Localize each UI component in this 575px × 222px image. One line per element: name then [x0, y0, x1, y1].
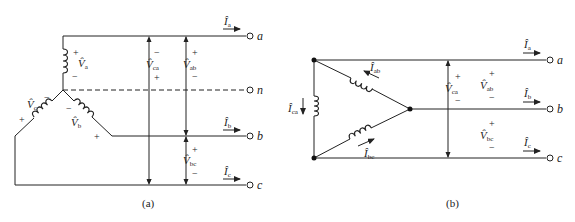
ibc-label: Îbc: [363, 147, 374, 161]
ib-label-b: Îb: [523, 87, 532, 101]
terminal-label-a-b: a: [557, 53, 563, 67]
wye-circuit: [15, 29, 253, 188]
caption-a: (a): [142, 197, 155, 210]
terminal-c-b: [547, 155, 553, 161]
ia-label: Îa: [223, 15, 232, 29]
terminal-c: [247, 182, 253, 188]
ic-label-b: Îc: [523, 136, 531, 150]
node-top: [312, 58, 317, 63]
svg-text:−: −: [489, 92, 495, 103]
coil-b-icon: [74, 98, 95, 117]
ib-label: Îb: [223, 116, 232, 130]
vca-label-b: V̂ca: [445, 82, 459, 96]
coil-a-icon: [63, 49, 68, 73]
svg-text:+: +: [19, 114, 25, 125]
svg-text:−: −: [154, 47, 160, 58]
terminal-b: [247, 133, 253, 139]
terminal-label-a: a: [257, 29, 263, 43]
vab-label-b: V̂ab: [480, 79, 494, 93]
va-label: V̂a: [78, 57, 89, 71]
svg-text:−: −: [192, 71, 198, 82]
ica-label: Îca: [287, 102, 299, 116]
svg-text:−: −: [455, 95, 461, 106]
terminal-b-b: [547, 106, 553, 112]
vbc-label: V̂bc: [183, 154, 196, 168]
svg-text:−: −: [192, 168, 198, 179]
terminal-a-b: [547, 57, 553, 63]
node-bottom: [312, 156, 317, 161]
terminal-label-c-b: c: [557, 151, 563, 165]
node-right: [408, 107, 413, 112]
svg-text:+: +: [192, 47, 198, 58]
coil-bc-icon: [348, 124, 371, 139]
svg-text:+: +: [489, 118, 495, 129]
svg-text:+: +: [192, 144, 198, 155]
terminal-label-n: n: [257, 83, 263, 97]
three-phase-diagram: a n b c Îa Îb Îc + V̂a − V̂c − + − V̂b +…: [0, 0, 575, 222]
delta-circuit: [303, 53, 553, 161]
vca-label: V̂ca: [146, 58, 160, 72]
svg-text:+: +: [94, 131, 100, 142]
svg-text:−: −: [66, 103, 72, 114]
iab-label: Îab: [369, 61, 381, 75]
svg-text:−: −: [489, 142, 495, 153]
svg-text:−: −: [44, 92, 50, 103]
svg-text:+: +: [154, 72, 160, 83]
terminal-a: [247, 33, 253, 39]
vbc-label-b: V̂bc: [480, 129, 493, 143]
svg-text:−: −: [72, 71, 78, 82]
terminal-n: [247, 87, 253, 93]
coil-ab-icon: [349, 78, 373, 93]
delta-labels: a b c Îa Îb Îc Îab Îbc Îca + V̂ca − + V̂…: [287, 38, 563, 210]
ibc-arrow-icon: [358, 139, 374, 146]
vc-label: V̂c: [27, 98, 37, 112]
vb-label: V̂b: [71, 116, 82, 130]
ic-label: Îc: [223, 165, 231, 179]
caption-b: (b): [446, 197, 459, 210]
terminal-label-b-b: b: [557, 102, 563, 116]
terminal-label-c: c: [257, 178, 263, 192]
ia-label-b: Îa: [523, 38, 532, 52]
terminal-label-b: b: [257, 129, 263, 143]
coil-ca-icon: [314, 96, 319, 116]
svg-text:+: +: [455, 71, 461, 82]
vab-label: V̂ab: [183, 58, 197, 72]
wye-labels: a n b c Îa Îb Îc + V̂a − V̂c − + − V̂b +…: [19, 15, 263, 210]
svg-text:+: +: [489, 68, 495, 79]
